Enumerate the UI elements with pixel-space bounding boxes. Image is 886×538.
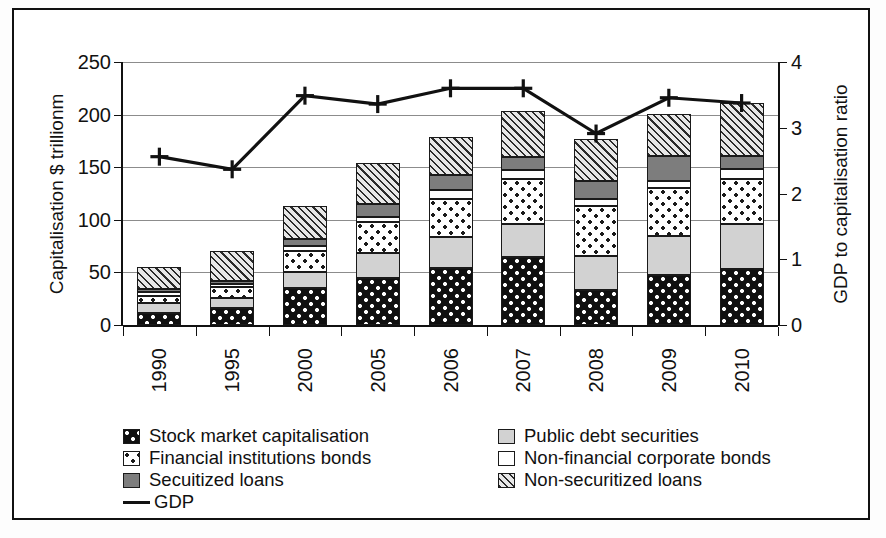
x-tick xyxy=(196,327,197,336)
legend-swatch xyxy=(498,429,515,444)
legend-column-right: Public debt securitiesNon-financial corp… xyxy=(498,425,828,491)
x-tick xyxy=(123,327,124,336)
x-axis-label: 2007 xyxy=(501,348,545,422)
x-tick xyxy=(560,327,561,336)
legend-label: GDP xyxy=(154,491,194,513)
legend-item[interactable]: GDP xyxy=(123,491,453,513)
legend-swatch xyxy=(123,473,140,488)
chart-frame: Capitalisation $ trillionm GDP to capita… xyxy=(12,8,870,520)
legend-label: Stock market capitalisation xyxy=(149,425,369,447)
legend-line-swatch xyxy=(123,495,150,510)
y-axis-title-left-text: Capitalisation $ trillionm xyxy=(46,93,68,294)
x-axis-label-text: 2005 xyxy=(366,348,389,393)
chart-screenshot: Capitalisation $ trillionm GDP to capita… xyxy=(0,0,886,538)
plot-area: 050100150200250 01234 199019952000200520… xyxy=(123,62,778,325)
y-tick-label-right: 0 xyxy=(791,314,802,337)
x-axis-label-text: 1990 xyxy=(148,348,171,393)
legend-label: Secuitized loans xyxy=(149,469,284,491)
legend-item[interactable]: Financial institutions bonds xyxy=(123,447,453,469)
legend-swatch xyxy=(123,451,140,466)
legend-item[interactable]: Stock market capitalisation xyxy=(123,425,453,447)
x-tick xyxy=(487,327,488,336)
x-axis-label: 2000 xyxy=(283,348,327,422)
y-tick-label-left: 100 xyxy=(78,208,111,231)
x-axis-label: 2010 xyxy=(720,348,764,422)
x-axis-label-text: 2007 xyxy=(512,348,535,393)
legend-label: Non-financial corporate bonds xyxy=(524,447,771,469)
x-axis-label-text: 2000 xyxy=(293,348,316,393)
y-tick-label-right: 2 xyxy=(791,182,802,205)
legend-swatch xyxy=(498,473,515,488)
x-axis-label: 1990 xyxy=(137,348,181,422)
x-tick xyxy=(705,327,706,336)
y-tick-label-left: 200 xyxy=(78,103,111,126)
y-axis-title-left: Capitalisation $ trillionm xyxy=(44,62,70,325)
y-axis-title-right: GDP to capitalisation ratio xyxy=(828,62,854,325)
x-axis-label: 2005 xyxy=(356,348,400,422)
x-tick xyxy=(414,327,415,336)
x-axis-label: 2008 xyxy=(574,348,618,422)
y-tick-label-left: 0 xyxy=(100,314,111,337)
x-axis-label-text: 2006 xyxy=(439,348,462,393)
legend-label: Financial institutions bonds xyxy=(149,447,371,469)
x-axis-label: 2006 xyxy=(429,348,473,422)
legend-label: Public debt securities xyxy=(524,425,699,447)
x-tick xyxy=(632,327,633,336)
legend-item[interactable]: Secuitized loans xyxy=(123,469,453,491)
legend-item[interactable]: Non-financial corporate bonds xyxy=(498,447,828,469)
legend-item[interactable]: Non-securitized loans xyxy=(498,469,828,491)
gdp-line-series xyxy=(123,62,778,325)
x-axis-label-text: 2009 xyxy=(657,348,680,393)
y-tick-left xyxy=(114,325,123,326)
y-tick-right xyxy=(778,325,787,326)
axis-line-right xyxy=(778,62,780,325)
x-tick xyxy=(341,327,342,336)
legend-label: Non-securitized loans xyxy=(524,469,702,491)
axis-line-bottom xyxy=(123,325,778,327)
y-tick-label-left: 250 xyxy=(78,51,111,74)
y-tick-label-left: 150 xyxy=(78,156,111,179)
x-axis-label: 2009 xyxy=(647,348,691,422)
x-axis-label-text: 2008 xyxy=(585,348,608,393)
y-axis-title-right-text: GDP to capitalisation ratio xyxy=(830,84,852,303)
x-axis-label: 1995 xyxy=(210,348,254,422)
x-axis-label-text: 2010 xyxy=(730,348,753,393)
y-tick-label-left: 50 xyxy=(89,261,111,284)
y-tick-label-right: 4 xyxy=(791,51,802,74)
legend-swatch xyxy=(123,429,140,444)
legend-column-left: Stock market capitalisationFinancial ins… xyxy=(123,425,453,513)
y-tick-label-right: 3 xyxy=(791,116,802,139)
y-tick-label-right: 1 xyxy=(791,248,802,271)
x-axis-label-text: 1995 xyxy=(221,348,244,393)
legend-item[interactable]: Public debt securities xyxy=(498,425,828,447)
x-tick xyxy=(778,327,779,336)
x-tick xyxy=(269,327,270,336)
legend-swatch xyxy=(498,451,515,466)
